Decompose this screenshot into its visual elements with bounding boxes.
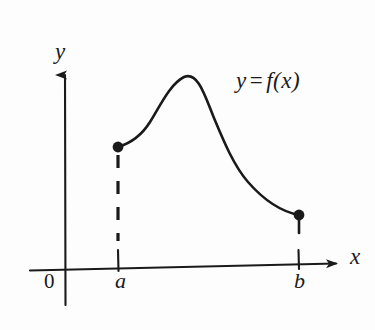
origin-label: 0 <box>44 271 55 292</box>
function-annotation: y=f(x) <box>236 69 300 92</box>
endpoint-dot-a <box>113 142 124 153</box>
function-annotation-equals: = <box>247 68 266 93</box>
tick-mark-b <box>299 250 300 269</box>
function-curve <box>118 76 299 215</box>
endpoint-dot-b <box>294 210 305 221</box>
function-annotation-y: y <box>236 68 247 93</box>
tick-label-b: b <box>294 270 305 292</box>
y-axis-line <box>65 75 66 305</box>
x-axis-line <box>30 264 336 271</box>
tick-label-a: a <box>115 270 126 292</box>
x-axis-label: x <box>350 245 360 268</box>
function-annotation-expr: f(x) <box>266 68 300 93</box>
function-graph-figure: y x 0 a b y=f(x) <box>0 0 375 330</box>
y-axis-label: y <box>55 40 65 63</box>
